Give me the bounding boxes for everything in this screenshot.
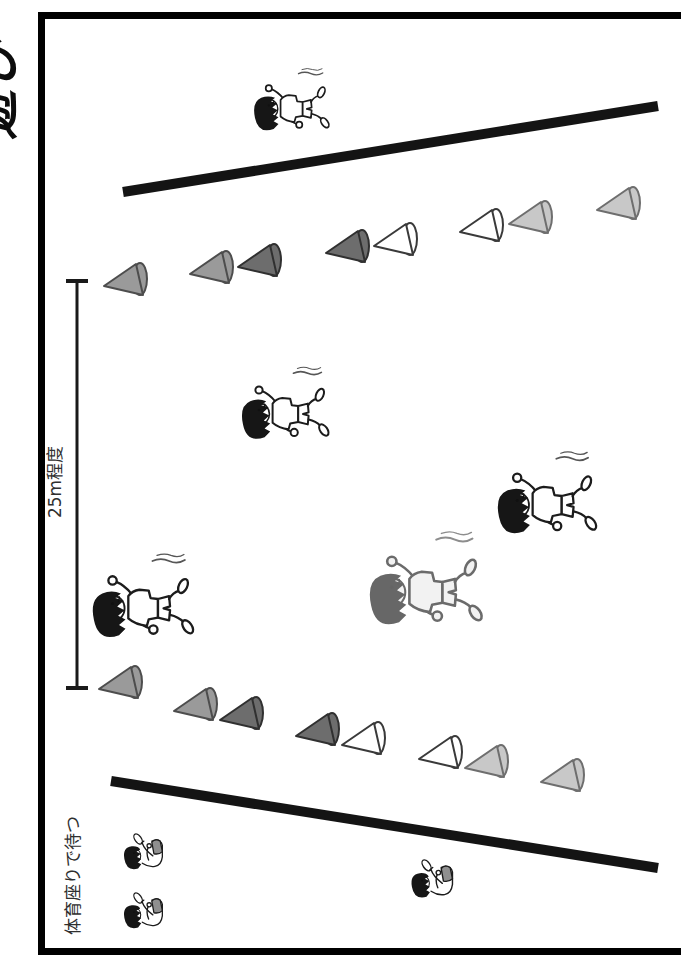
distance-measure-line	[66, 281, 88, 688]
sitter-2	[102, 879, 190, 937]
sitting-child-figure	[396, 845, 474, 907]
start-line	[123, 106, 658, 192]
cone-top-1-gray	[104, 263, 147, 295]
cone-bottom-4-dark	[296, 713, 339, 745]
runner-child-figure	[238, 362, 336, 450]
cone-top-8-light	[597, 187, 640, 219]
cone-bottom-5-white	[342, 722, 385, 754]
finish-line	[111, 781, 658, 868]
cone-top-6-white	[460, 209, 503, 241]
runner-child-figure	[366, 524, 490, 640]
cone-top-4-dark	[326, 230, 369, 262]
runner-top	[250, 64, 336, 140]
cone-bottom-6-white	[419, 736, 462, 768]
sitter-1	[102, 820, 190, 878]
sitting-child-figure	[102, 879, 190, 937]
runner-center	[366, 524, 490, 640]
runner-child-figure	[88, 548, 202, 650]
cone-bottom-1-gray	[99, 666, 142, 698]
runner-child-figure	[250, 64, 336, 140]
gray-shorts	[152, 899, 163, 913]
cone-top-2-gray	[190, 251, 233, 283]
runner-left	[88, 548, 202, 650]
runner-right	[492, 446, 606, 546]
cone-bottom-8-light	[541, 759, 584, 791]
runner-upper	[238, 362, 336, 450]
cone-bottom-7-light	[465, 745, 508, 777]
cone-top-7-light	[509, 201, 552, 233]
sitting-child-figure	[102, 820, 190, 878]
cone-bottom-2-gray	[174, 688, 217, 720]
gray-shorts	[152, 840, 163, 854]
runner-child-figure	[492, 446, 606, 546]
sitter-3	[396, 845, 474, 907]
cone-top-5-white	[374, 223, 417, 255]
pe-drill-diagram: 遊び 25m程度 体育座りで待つ	[0, 0, 681, 967]
cone-top-3-dark	[238, 244, 281, 276]
gray-shorts	[441, 866, 452, 881]
cone-bottom-3-dark	[220, 697, 263, 729]
